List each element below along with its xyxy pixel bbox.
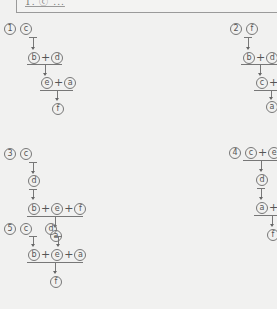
option-1-row-4: f: [52, 102, 64, 115]
option-1-row-1: 1c: [4, 22, 32, 35]
plus-sign: +: [54, 77, 63, 89]
arrow-down-icon: [270, 224, 274, 227]
option-4-row-2: d: [256, 173, 268, 186]
arrow-down-icon: [31, 197, 35, 200]
node-f: f: [267, 229, 277, 241]
plus-sign: +: [41, 52, 50, 64]
arrow-down-icon: [31, 47, 35, 50]
plus-sign: +: [41, 203, 50, 215]
node-b: b: [28, 52, 40, 64]
divider: [254, 90, 277, 91]
option-number-1: 1: [4, 23, 16, 35]
option-4-row-1: 4c+e: [229, 146, 277, 159]
option-2-row-2: b+d: [243, 51, 277, 64]
node-c: c: [20, 223, 32, 235]
plus-sign: +: [41, 249, 50, 261]
divider: [243, 160, 277, 161]
option-number-2: 2: [230, 23, 242, 35]
node-f: f: [246, 23, 258, 35]
option-5-row-2: b+e+a: [28, 248, 86, 261]
node-e: e: [51, 203, 63, 215]
node-f: f: [50, 276, 62, 288]
option-1-row-2: b+d: [28, 51, 63, 64]
option-5-row-1: 5cd: [4, 222, 57, 235]
arrow-down-icon: [259, 169, 263, 172]
divider: [241, 64, 277, 65]
plus-sign: +: [269, 202, 277, 214]
arrow-down-icon: [259, 197, 263, 200]
option-number-3: 3: [4, 148, 16, 160]
node-a: a: [64, 77, 76, 89]
node-d: d: [266, 52, 277, 64]
node-d: d: [28, 175, 40, 187]
plus-sign: +: [269, 77, 277, 89]
node-c: c: [245, 147, 257, 159]
node-a: a: [74, 249, 86, 261]
option-3-row-1: 3c: [4, 147, 32, 160]
node-a: a: [256, 202, 268, 214]
node-f: f: [52, 103, 64, 115]
node-b: b: [28, 203, 40, 215]
node-e: e: [51, 249, 63, 261]
node-d: d: [51, 52, 63, 64]
option-3-row-2: d: [28, 174, 40, 187]
node-f: f: [74, 203, 86, 215]
arrow-down-icon: [31, 244, 35, 247]
plus-sign: +: [64, 203, 73, 215]
node-d: d: [45, 223, 57, 235]
option-2-row-1: 2f: [230, 22, 258, 35]
node-c: c: [20, 148, 32, 160]
arrow-down-icon: [53, 271, 57, 274]
option-1-row-3: e+a: [41, 76, 76, 89]
node-a: a: [266, 101, 277, 113]
plus-sign: +: [256, 52, 265, 64]
plus-sign: +: [64, 249, 73, 261]
node-c: c: [20, 23, 32, 35]
node-d: d: [256, 174, 268, 186]
node-b: b: [243, 52, 255, 64]
node-c: c: [256, 77, 268, 89]
node-b: b: [28, 249, 40, 261]
option-4-row-3: a+: [256, 201, 277, 214]
option-number-5: 5: [4, 223, 16, 235]
node-e: e: [41, 77, 53, 89]
option-3-row-3: b+e+f: [28, 202, 86, 215]
node-e: e: [268, 147, 277, 159]
option-2-row-3: c+: [256, 76, 277, 89]
arrow-down-icon: [56, 244, 60, 247]
option-4-row-4: f: [267, 228, 277, 241]
question-box: 1. ⓒ ...: [16, 0, 277, 13]
option-2-row-4: a: [266, 100, 277, 113]
option-5-row-3: f: [50, 275, 62, 288]
question-text: 1. ⓒ ...: [25, 0, 65, 7]
arrow-down-icon: [246, 47, 250, 50]
plus-sign: +: [258, 147, 267, 159]
divider: [254, 215, 277, 216]
arrow-down-icon: [55, 98, 59, 101]
option-number-4: 4: [229, 147, 241, 159]
